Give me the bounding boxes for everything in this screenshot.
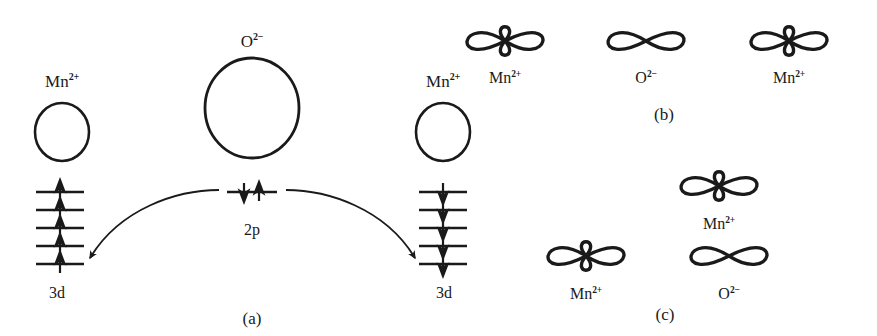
spin-down-arrow	[439, 237, 447, 258]
mn-right-circle	[416, 103, 470, 161]
p-spin-down-arrow	[240, 183, 248, 202]
spin-down-arrow	[439, 255, 447, 276]
spin-up-arrow	[56, 252, 64, 273]
panel-b-label-o-middle: O2−	[635, 70, 656, 86]
o-center-circle	[205, 58, 299, 158]
spin-down-arrow	[439, 201, 447, 222]
orbital-mn-right-b	[751, 27, 827, 56]
left-3d-up-spin-arrows	[56, 180, 64, 273]
o-center-ion-label: O2−	[241, 32, 264, 50]
p-level-group	[227, 182, 277, 202]
panel-c-label-mn-bottom-left: Mn2+	[570, 286, 602, 302]
panel-a-ion-circles	[35, 58, 470, 161]
panel-a-caption: (a)	[243, 310, 262, 327]
mn-right-ion-label: Mn2+	[426, 72, 460, 90]
orbital-o-bottom-right-c	[691, 248, 767, 265]
superexchange-figure: Mn2+ O2− Mn2+ 3d 3d 2p (a) Mn2+ O2− Mn2+…	[0, 0, 877, 336]
panel-b-orbitals	[467, 27, 827, 56]
p-shell-label: 2p	[244, 222, 260, 238]
orbital-mn-bottom-left-c	[548, 242, 624, 271]
mn-left-circle	[35, 103, 89, 161]
panel-b-caption: (b)	[654, 106, 674, 123]
spin-down-arrow	[439, 219, 447, 240]
orbital-o-middle-b	[608, 33, 684, 50]
transfer-arrow-left	[90, 190, 219, 258]
panel-b-label-mn-left: Mn2+	[489, 70, 521, 86]
orbital-mn-top-c	[681, 172, 757, 201]
right-3d-down-spin-arrows	[439, 183, 447, 276]
panel-c-label-o-bottom-right: O2−	[718, 286, 739, 302]
transfer-arrow-right	[286, 190, 415, 258]
left-3d-shell-label: 3d	[49, 285, 65, 301]
p-spin-up-arrow	[255, 182, 263, 201]
spin-down-arrow	[439, 183, 447, 204]
panel-c-caption: (c)	[656, 306, 675, 323]
mn-left-ion-label: Mn2+	[45, 72, 79, 90]
panel-c-label-mn-top: Mn2+	[703, 216, 735, 232]
right-3d-shell-label: 3d	[436, 285, 452, 301]
p-orbital-lobes	[608, 33, 684, 50]
orbital-mn-left-b	[467, 27, 543, 56]
panel-b-label-mn-right: Mn2+	[773, 70, 805, 86]
p-orbital-lobes	[691, 248, 767, 265]
